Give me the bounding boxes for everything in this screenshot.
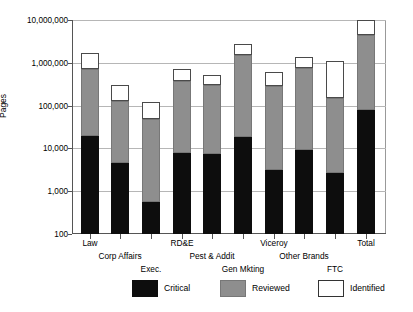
bar-segment-critical — [326, 173, 344, 234]
y-axis-tick-label: 10,000 — [0, 144, 68, 153]
bar-segment-critical — [203, 154, 221, 234]
bar-segment-critical — [111, 163, 129, 234]
x-axis-tick-mark — [151, 234, 152, 239]
y-axis-tick-label: 1,000,000 — [0, 58, 68, 67]
bar-pest-addit[interactable] — [203, 20, 221, 234]
bar-segment-identified — [326, 61, 344, 98]
bar-segment-reviewed — [142, 119, 160, 202]
bar-segment-identified — [265, 72, 283, 86]
bar-segment-critical — [234, 137, 252, 234]
bar-total[interactable] — [357, 20, 375, 234]
x-axis-tick-mark — [243, 234, 244, 239]
x-axis-label-corp-affairs: Corp Affairs — [98, 251, 141, 261]
legend-label-identified: Identified — [350, 283, 385, 293]
bar-exec[interactable] — [142, 20, 160, 234]
bar-segment-reviewed — [173, 81, 191, 153]
bar-segment-reviewed — [295, 68, 313, 150]
bar-segment-reviewed — [357, 35, 375, 110]
x-axis-label-ftc: FTC — [327, 264, 343, 274]
y-axis-tick-label: 100 — [0, 230, 68, 239]
x-axis-label-other-brands: Other Brands — [279, 251, 328, 261]
bar-segment-critical — [295, 150, 313, 234]
x-axis-tick-mark — [335, 234, 336, 239]
bar-segment-critical — [173, 153, 191, 234]
bar-series-layer — [72, 20, 386, 234]
bar-segment-critical — [142, 202, 160, 234]
x-axis-label-law: Law — [82, 238, 97, 248]
x-axis-tick-mark — [212, 234, 213, 239]
x-axis-label-total: Total — [357, 238, 375, 248]
bar-segment-critical — [357, 110, 375, 234]
legend-swatch-reviewed — [220, 280, 246, 297]
bar-segment-reviewed — [326, 98, 344, 173]
y-axis-tick-label: 100,000 — [0, 101, 68, 110]
legend-item-identified[interactable]: Identified — [318, 278, 385, 298]
bar-segment-identified — [81, 53, 99, 69]
bar-gen-mkting[interactable] — [234, 20, 252, 234]
x-axis-tick-mark — [120, 234, 121, 239]
bar-segment-identified — [203, 75, 221, 85]
bar-viceroy[interactable] — [265, 20, 283, 234]
bar-segment-reviewed — [234, 55, 252, 137]
x-axis-label-rd-e: RD&E — [170, 238, 193, 248]
x-axis-label-pest-addit: Pest & Addit — [189, 251, 234, 261]
bar-other-brands[interactable] — [295, 20, 313, 234]
legend-label-critical: Critical — [164, 283, 190, 293]
bar-corp-affairs[interactable] — [111, 20, 129, 234]
y-axis-tick-mark — [68, 234, 72, 235]
bar-law[interactable] — [81, 20, 99, 234]
bar-ftc[interactable] — [326, 20, 344, 234]
y-axis-tick-label: 1,000 — [0, 187, 68, 196]
legend-swatch-critical — [132, 280, 158, 297]
bar-segment-reviewed — [111, 101, 129, 164]
legend-item-critical[interactable]: Critical — [132, 278, 190, 298]
y-axis-tick-label: 10,000,000 — [0, 16, 68, 25]
x-axis-label-gen-mkting: Gen Mkting — [222, 264, 264, 274]
bar-segment-critical — [265, 170, 283, 234]
chart-legend: CriticalReviewedIdentified — [70, 278, 390, 300]
bar-segment-reviewed — [265, 86, 283, 170]
x-axis-tick-mark — [304, 234, 305, 239]
bar-segment-reviewed — [81, 69, 99, 135]
x-axis-label-viceroy: Viceroy — [260, 238, 288, 248]
bar-segment-reviewed — [203, 85, 221, 154]
bar-segment-critical — [81, 136, 99, 234]
bar-segment-identified — [142, 102, 160, 119]
bar-segment-identified — [295, 57, 313, 69]
bar-segment-identified — [234, 44, 252, 56]
bar-segment-identified — [111, 85, 129, 101]
bar-rd-e[interactable] — [173, 20, 191, 234]
legend-item-reviewed[interactable]: Reviewed — [220, 278, 290, 298]
y-axis-title: Pages — [0, 94, 8, 118]
legend-label-reviewed: Reviewed — [252, 283, 290, 293]
legend-swatch-identified — [318, 280, 344, 297]
bar-segment-identified — [173, 69, 191, 80]
bar-segment-identified — [357, 20, 375, 35]
x-axis-label-exec: Exec. — [141, 264, 162, 274]
chart-container: Pages 1001,00010,000100,0001,000,00010,0… — [0, 0, 413, 312]
